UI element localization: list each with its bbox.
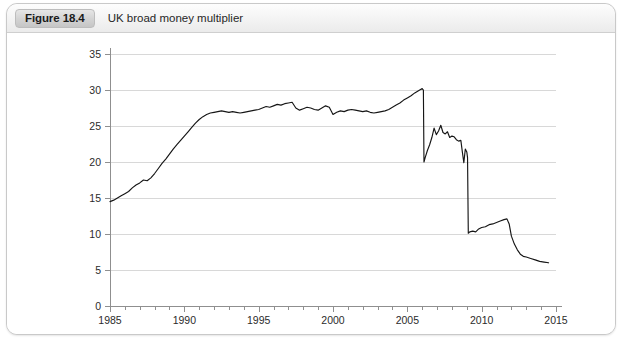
y-axis-tick-label: 20 (89, 156, 101, 168)
gridlines (110, 55, 556, 271)
series-line (110, 89, 549, 263)
x-axis-tick-label: 2000 (321, 314, 345, 326)
figure-number-badge: Figure 18.4 (15, 9, 95, 28)
y-axis-ticks (105, 55, 110, 307)
y-axis-tick-label: 35 (89, 48, 101, 60)
chart-plot-area: 05101520253035 1985199019952000200520102… (7, 33, 615, 335)
figure-source-note (28, 338, 618, 345)
x-axis-tick-label: 1990 (173, 314, 197, 326)
y-axis-tick-label: 15 (89, 192, 101, 204)
data-series (110, 89, 549, 263)
x-axis-tick-label: 1985 (98, 314, 122, 326)
y-axis-tick-label: 30 (89, 84, 101, 96)
y-axis-tick-label: 25 (89, 120, 101, 132)
line-chart: 05101520253035 1985199019952000200520102… (7, 33, 616, 335)
x-axis-labels: 1985199019952000200520102015 (98, 314, 568, 326)
y-axis-tick-label: 10 (89, 228, 101, 240)
figure-header: Figure 18.4 UK broad money multiplier (7, 4, 615, 33)
x-axis-tick-label: 2015 (544, 314, 568, 326)
y-axis-tick-label: 0 (95, 300, 101, 312)
x-axis-tick-label: 2010 (470, 314, 494, 326)
figure-title: UK broad money multiplier (108, 12, 244, 24)
axis-lines (110, 48, 562, 307)
x-axis-tick-label: 1995 (247, 314, 271, 326)
figure-panel: Figure 18.4 UK broad money multiplier 05… (6, 3, 616, 335)
y-axis-tick-label: 5 (95, 264, 101, 276)
y-axis-labels: 05101520253035 (89, 48, 101, 312)
x-axis-tick-label: 2005 (396, 314, 420, 326)
